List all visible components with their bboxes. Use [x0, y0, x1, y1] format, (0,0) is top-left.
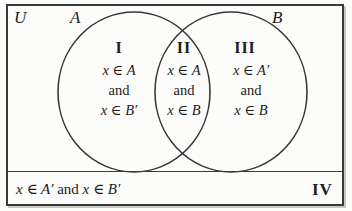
- region-ii-line-2: and: [152, 80, 216, 100]
- region-iv-caption-conjunction: and: [57, 181, 79, 197]
- region-i-line-2: and: [85, 80, 153, 100]
- region-numeral-i: I: [104, 39, 134, 57]
- region-iii-line-2: and: [216, 80, 286, 100]
- region-numeral-iii: III: [228, 39, 262, 57]
- region-iv-caption-suffix: x ∈ B′: [79, 181, 120, 197]
- set-b-label: B: [272, 8, 283, 28]
- venn-diagram-figure: U A B I II III IV x ∈ A and x ∈ B′ x ∈ A…: [0, 0, 352, 211]
- region-iv-caption-prefix: x ∈ A′: [16, 181, 57, 197]
- region-i-line-3: x ∈ B′: [85, 100, 153, 120]
- region-i-membership-text: x ∈ A and x ∈ B′: [85, 60, 153, 120]
- region-iv-caption: x ∈ A′ and x ∈ B′: [16, 180, 120, 198]
- region-numeral-ii: II: [169, 39, 199, 57]
- region-ii-membership-text: x ∈ A and x ∈ B: [152, 60, 216, 120]
- region-ii-line-3: x ∈ B: [152, 100, 216, 120]
- region-i-line-1: x ∈ A: [85, 60, 153, 80]
- region-ii-line-1: x ∈ A: [152, 60, 216, 80]
- universal-set-label: U: [14, 8, 27, 28]
- region-iii-membership-text: x ∈ A′ and x ∈ B: [216, 60, 286, 120]
- region-iii-line-3: x ∈ B: [216, 100, 286, 120]
- region-iii-line-1: x ∈ A′: [216, 60, 286, 80]
- set-a-label: A: [70, 8, 81, 28]
- region-numeral-iv: IV: [312, 180, 333, 200]
